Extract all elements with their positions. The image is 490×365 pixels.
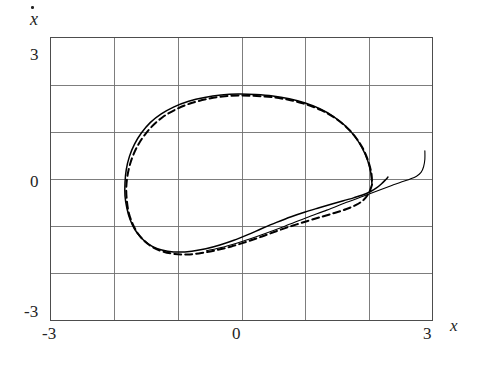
trajectory-curves <box>125 94 425 254</box>
plot-frame <box>51 38 433 321</box>
trajectory-transient-tail <box>206 151 424 251</box>
phase-plane-figure: x x 3 0 -3 -3 0 3 <box>0 0 490 365</box>
x-tick-label-0: 0 <box>232 325 241 342</box>
trajectory-dashed-trajectory <box>126 95 372 254</box>
y-tick-label-3: 3 <box>30 46 39 63</box>
y-tick-label-neg3: -3 <box>24 303 38 320</box>
y-tick-label-0: 0 <box>30 173 39 190</box>
trajectory-solid-trajectory <box>125 94 388 252</box>
plot-canvas <box>0 0 490 365</box>
y-axis-label: x <box>30 10 38 28</box>
y-axis-label-glyph: x <box>30 10 38 28</box>
x-axis-label: x <box>450 317 458 334</box>
grid-lines <box>51 38 433 321</box>
x-tick-label-3: 3 <box>423 325 432 342</box>
x-tick-label-neg3: -3 <box>42 325 56 342</box>
